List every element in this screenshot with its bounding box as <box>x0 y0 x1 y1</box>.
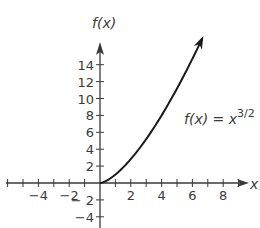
y-tick-label: 10 <box>77 92 94 107</box>
curve-series <box>100 36 203 183</box>
y-tick-label: 6 <box>86 125 94 140</box>
axes: −4−22468−4− 22468101214 <box>6 42 249 228</box>
y-tick-label: − 2 <box>71 193 94 208</box>
y-tick-label: 14 <box>77 58 94 73</box>
curve-equation-label: f(x) = x3/2 <box>184 107 255 127</box>
y-tick-label: 8 <box>86 108 94 123</box>
curve-exponent: 3/2 <box>237 107 255 120</box>
y-axis-label: f(x) <box>92 15 116 31</box>
y-tick-label: 12 <box>77 75 94 90</box>
y-tick-label: −4 <box>75 210 94 225</box>
chart-figure: −4−22468−4− 22468101214 f(x) x f(x) = x3… <box>0 0 260 228</box>
x-tick-label: 4 <box>157 188 165 203</box>
x-tick-label: 6 <box>188 188 196 203</box>
x-tick-label: 8 <box>219 188 227 203</box>
y-tick-label: 2 <box>86 159 94 174</box>
y-tick-label: 4 <box>86 142 94 157</box>
x-axis-label: x <box>249 176 259 192</box>
chart-canvas: −4−22468−4− 22468101214 f(x) x f(x) = x3… <box>0 0 260 228</box>
x-tick-label: −4 <box>29 188 48 203</box>
x-tick-label: 2 <box>127 188 135 203</box>
